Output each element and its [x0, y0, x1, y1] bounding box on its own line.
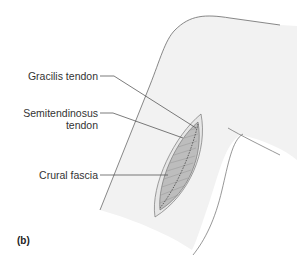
anatomy-illustration [0, 0, 297, 261]
panel-label: (b) [17, 235, 30, 246]
label-semitendinosus-tendon-line1: Semitendinosus [23, 107, 98, 119]
label-crural-fascia: Crural fascia [39, 169, 98, 181]
label-semitendinosus-tendon-line2: tendon [66, 119, 98, 131]
label-gracilis-tendon: Gracilis tendon [28, 70, 98, 82]
